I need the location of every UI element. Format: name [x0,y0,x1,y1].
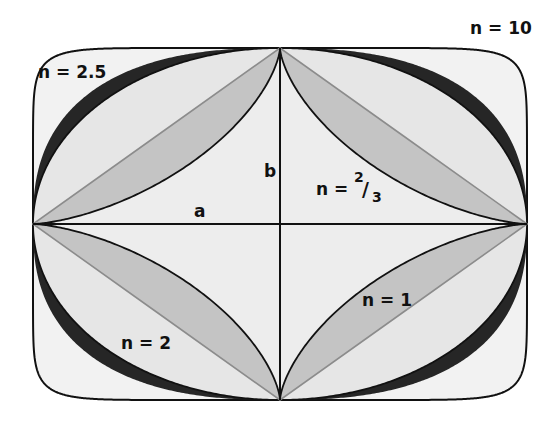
label-b: b [264,161,276,181]
label-n-2: n = 2 [121,333,171,353]
label-n-1: n = 1 [362,290,412,310]
label-n-10: n = 10 [470,18,532,38]
svg-text:n =: n = [316,179,348,199]
label-n-2-5: n = 2.5 [38,62,106,82]
svg-text:/: / [362,178,369,200]
superellipse-diagram: n = 10 n = 2.5 n = 2 n = 1 n = 2 / 3 a b [0,0,556,425]
svg-text:3: 3 [372,189,382,205]
label-a: a [194,201,205,221]
